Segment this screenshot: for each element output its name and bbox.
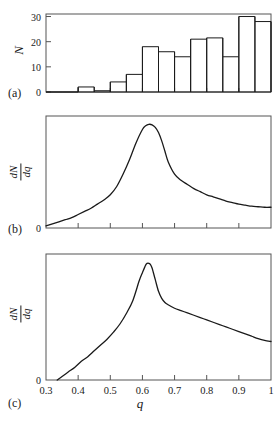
- panel-b-tag: (b): [8, 222, 22, 237]
- svg-text:0.4: 0.4: [72, 385, 86, 396]
- panel-b-y-denominator: dq: [21, 164, 33, 181]
- svg-text:10: 10: [31, 62, 41, 73]
- svg-text:0.6: 0.6: [136, 385, 149, 396]
- panel-b-y-axis-fraction: dN dq: [8, 164, 32, 181]
- svg-text:1: 1: [268, 385, 273, 396]
- panel-c-y-axis-fraction: dN dq: [8, 306, 32, 323]
- panel-a-tag: (a): [8, 86, 21, 101]
- panel-c-y-numerator: dN: [8, 306, 21, 323]
- svg-text:0.5: 0.5: [104, 385, 117, 396]
- panel-a-histogram: N (a) 0102030: [0, 0, 280, 108]
- svg-text:0.8: 0.8: [200, 385, 213, 396]
- svg-text:0.3: 0.3: [39, 385, 52, 396]
- svg-text:30: 30: [31, 12, 41, 23]
- svg-text:0: 0: [36, 223, 41, 234]
- panel-b-y-numerator: dN: [8, 164, 21, 181]
- panel-b-derivative-curve: dN dq (b) 0: [0, 108, 280, 244]
- svg-text:0.9: 0.9: [232, 385, 245, 396]
- panel-a-y-axis-label: N: [12, 46, 25, 55]
- panel-c-y-denominator: dq: [21, 306, 33, 323]
- svg-text:20: 20: [31, 37, 41, 48]
- svg-text:0: 0: [36, 375, 41, 386]
- svg-text:0.7: 0.7: [168, 385, 181, 396]
- svg-text:0: 0: [36, 87, 41, 98]
- panel-c-derivative-curve: dN dq (c) 0.30.40.50.60.70.80.910 q: [0, 244, 280, 429]
- figure-three-panel-q-distribution: N (a) 0102030 dN dq (b) 0 dN dq (c) 0.30…: [0, 0, 280, 429]
- x-axis-label: q: [0, 396, 280, 412]
- panel-a-plot: 0102030: [0, 0, 280, 108]
- panel-b-y-axis-label: dN dq: [8, 164, 32, 181]
- panel-b-plot: 0: [0, 108, 280, 244]
- panel-c-y-axis-label: dN dq: [8, 306, 32, 323]
